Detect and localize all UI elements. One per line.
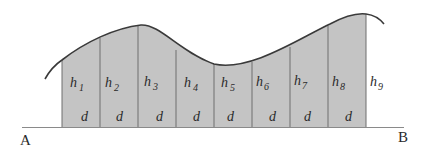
point-a-label: A xyxy=(20,132,31,148)
strip-width-5: d xyxy=(227,109,235,124)
strip-width-2: d xyxy=(116,109,124,124)
strip-width-6: d xyxy=(269,109,277,124)
strip-width-7: d xyxy=(304,109,312,124)
strip-width-1: d xyxy=(81,109,89,124)
ordinate-label-h9: h9 xyxy=(370,74,383,92)
point-b-label: B xyxy=(398,129,408,145)
strip-width-8: d xyxy=(345,109,353,124)
strip-width-3: d xyxy=(156,109,164,124)
strip-area-diagram: A B h1 h2 h3 h4 h5 h6 h7 h8 h9 d d d d d… xyxy=(0,0,427,155)
strip-width-4: d xyxy=(193,109,201,124)
